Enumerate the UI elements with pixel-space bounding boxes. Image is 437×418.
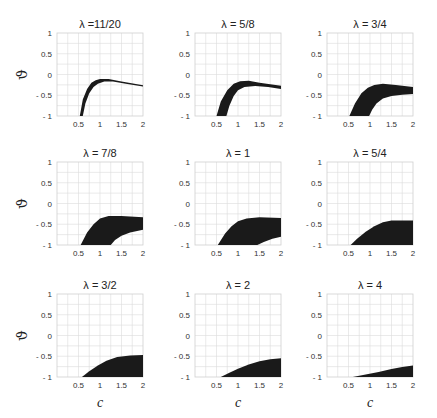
x-tick-label: 1 xyxy=(368,249,373,258)
stability-region xyxy=(349,84,413,116)
y-tick-label: - 1 xyxy=(181,112,191,121)
panel-1: λ =11/2010.50- 0.5- 10.511.52ϑ xyxy=(13,18,146,129)
stability-region xyxy=(353,365,413,377)
stability-region xyxy=(221,358,281,377)
y-tick-label: 0 xyxy=(318,332,323,341)
x-tick-label: 1.5 xyxy=(116,381,128,390)
panel-title: λ = 5/8 xyxy=(221,18,254,30)
stability-region xyxy=(82,355,143,377)
panel-7: λ = 3/210.50- 0.5- 10.511.52ϑc xyxy=(13,279,146,410)
y-tick-label: 1 xyxy=(186,158,191,167)
y-tick-label: 1 xyxy=(318,158,323,167)
y-tick-label: - 1 xyxy=(43,241,53,250)
x-tick-label: 1 xyxy=(368,381,373,390)
panel-title: λ = 4 xyxy=(358,279,382,291)
x-tick-label: 1 xyxy=(98,381,103,390)
x-tick-label: 0.5 xyxy=(211,381,223,390)
x-tick-label: 0.5 xyxy=(343,249,355,258)
y-tick-label: - 0.5 xyxy=(36,91,53,100)
y-tick-label: 0.5 xyxy=(41,50,53,59)
x-tick-label: 1.5 xyxy=(116,249,128,258)
y-tick-label: 0.5 xyxy=(311,50,323,59)
y-tick-label: 1 xyxy=(186,290,191,299)
y-tick-label: 0 xyxy=(318,71,323,80)
y-tick-label: 1 xyxy=(48,290,53,299)
x-tick-label: 0.5 xyxy=(343,381,355,390)
y-tick-label: - 1 xyxy=(43,112,53,121)
y-tick-label: - 0.5 xyxy=(306,91,323,100)
x-tick-label: 0.5 xyxy=(211,120,223,129)
panel-6: λ = 5/410.50- 0.5- 10.511.52 xyxy=(306,147,416,258)
x-tick-label: 1 xyxy=(98,120,103,129)
x-tick-label: 1 xyxy=(98,249,103,258)
y-tick-label: 0.5 xyxy=(179,50,191,59)
y-tick-label: 1 xyxy=(318,290,323,299)
y-tick-label: 0.5 xyxy=(311,311,323,320)
panel-title: λ = 3/2 xyxy=(83,279,116,291)
x-tick-label: 1.5 xyxy=(116,120,128,129)
panel-title: λ =11/20 xyxy=(79,18,121,30)
figure-3x3-grid: λ =11/2010.50- 0.5- 10.511.52ϑλ = 5/810.… xyxy=(0,0,437,418)
y-tick-label: - 0.5 xyxy=(306,220,323,229)
x-axis-label: c xyxy=(97,395,104,410)
x-tick-label: 2 xyxy=(141,120,146,129)
panel-title: λ = 2 xyxy=(226,279,250,291)
x-tick-label: 2 xyxy=(279,120,284,129)
x-tick-label: 2 xyxy=(411,381,416,390)
y-tick-label: - 0.5 xyxy=(174,91,191,100)
panel-4: λ = 7/810.50- 0.5- 10.511.52ϑ xyxy=(13,147,146,258)
y-axis-label: ϑ xyxy=(13,330,31,341)
panel-title: λ = 1 xyxy=(226,147,250,159)
chart-canvas: λ =11/2010.50- 0.5- 10.511.52ϑλ = 5/810.… xyxy=(0,0,437,418)
y-tick-label: 0 xyxy=(318,200,323,209)
x-tick-label: 0.5 xyxy=(73,249,85,258)
x-tick-label: 1.5 xyxy=(254,120,266,129)
y-tick-label: - 0.5 xyxy=(36,220,53,229)
y-tick-label: 1 xyxy=(186,29,191,38)
panel-8: λ = 210.50- 0.5- 10.511.52c xyxy=(174,279,284,410)
x-tick-label: 1.5 xyxy=(386,120,398,129)
y-tick-label: - 0.5 xyxy=(174,352,191,361)
y-tick-label: 0.5 xyxy=(179,179,191,188)
y-tick-label: 1 xyxy=(48,29,53,38)
y-tick-label: - 1 xyxy=(313,373,323,382)
x-tick-label: 1.5 xyxy=(254,381,266,390)
panel-5: λ = 110.50- 0.5- 10.511.52 xyxy=(174,147,284,258)
y-tick-label: 0 xyxy=(48,200,53,209)
y-axis-label: ϑ xyxy=(13,198,31,209)
x-tick-label: 0.5 xyxy=(343,120,355,129)
y-tick-label: 0 xyxy=(48,71,53,80)
y-tick-label: 0.5 xyxy=(41,311,53,320)
x-tick-label: 2 xyxy=(141,249,146,258)
panel-title: λ = 5/4 xyxy=(353,147,386,159)
x-axis-label: c xyxy=(235,395,242,410)
y-tick-label: 1 xyxy=(318,29,323,38)
x-tick-label: 1 xyxy=(368,120,373,129)
x-tick-label: 2 xyxy=(279,249,284,258)
x-tick-label: 1.5 xyxy=(254,249,266,258)
panel-3: λ = 3/410.50- 0.5- 10.511.52 xyxy=(306,18,416,129)
y-tick-label: - 1 xyxy=(181,241,191,250)
x-tick-label: 2 xyxy=(411,249,416,258)
y-tick-label: 0 xyxy=(186,200,191,209)
y-tick-label: 0 xyxy=(186,332,191,341)
x-tick-label: 2 xyxy=(279,381,284,390)
y-tick-label: 0.5 xyxy=(41,179,53,188)
x-tick-label: 1 xyxy=(236,120,241,129)
y-tick-label: 0 xyxy=(186,71,191,80)
x-tick-label: 1.5 xyxy=(386,249,398,258)
y-tick-label: - 1 xyxy=(313,112,323,121)
y-tick-label: 0.5 xyxy=(311,179,323,188)
y-axis-label: ϑ xyxy=(13,69,31,80)
y-tick-label: - 0.5 xyxy=(36,352,53,361)
y-tick-label: - 0.5 xyxy=(174,220,191,229)
panel-2: λ = 5/810.50- 0.5- 10.511.52 xyxy=(174,18,284,129)
x-tick-label: 0.5 xyxy=(211,249,223,258)
y-tick-label: - 1 xyxy=(181,373,191,382)
stability-region xyxy=(81,216,143,245)
x-tick-label: 0.5 xyxy=(73,381,85,390)
x-tick-label: 0.5 xyxy=(73,120,85,129)
y-tick-label: 0.5 xyxy=(179,311,191,320)
y-tick-label: - 1 xyxy=(313,241,323,250)
panel-title: λ = 3/4 xyxy=(353,18,386,30)
